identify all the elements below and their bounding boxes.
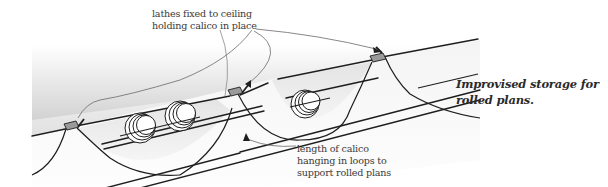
label-calico-line3: support rolled plans (297, 167, 391, 179)
label-calico-line2: hanging in loops to (297, 155, 391, 167)
rolled-plan-1 (125, 113, 156, 143)
label-calico: length of calico hanging in loops to sup… (297, 143, 391, 179)
figure-caption: Improvised storage for rolled plans. (456, 76, 599, 108)
label-calico-line1: length of calico (297, 143, 391, 155)
label-lathes: lathes fixed to ceiling holding calico i… (152, 8, 257, 32)
caption-line1: Improvised storage for (456, 76, 599, 92)
rolled-plan-2 (165, 101, 196, 131)
label-lathes-line1: lathes fixed to ceiling (152, 8, 257, 20)
caption-line2: rolled plans. (456, 92, 599, 108)
label-lathes-line2: holding calico in place (152, 20, 257, 32)
diagram-canvas: lathes fixed to ceiling holding calico i… (0, 0, 608, 187)
